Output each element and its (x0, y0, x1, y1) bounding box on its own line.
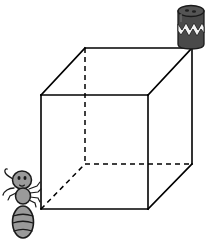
ant-antenna-lower (3, 188, 14, 195)
cube-hidden-edge-bottom-left-receding (41, 164, 85, 209)
ant-leg-middle (30, 189, 41, 193)
cylinder-highlight (180, 14, 182, 22)
ant (3, 169, 41, 238)
cube-edge-top-left-receding (41, 48, 85, 95)
cube-visible-edges (41, 48, 192, 209)
figure-canvas: Ant and cylinder on a cube ant sugar cyl… (0, 0, 208, 243)
ant-eye-right (24, 176, 27, 180)
cube-edge-top-right-receding (148, 48, 192, 95)
ant-eye-left (18, 176, 21, 180)
cylinder-top-hole-left (185, 9, 189, 12)
sugar-cylinder (178, 6, 204, 50)
cylinder-top-hole-right (192, 10, 196, 13)
ant-leg-rear-2 (29, 200, 36, 207)
cube-edge-bottom-right-receding (148, 164, 192, 209)
ant-thorax (16, 188, 31, 204)
geometry-illustration (0, 0, 208, 243)
